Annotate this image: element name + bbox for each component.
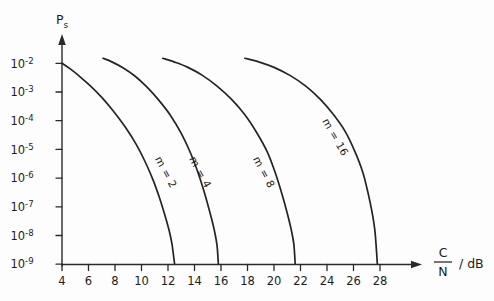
curve-label-m-2: m = 2 <box>153 154 180 190</box>
y-tick-label-6: 10-8 <box>10 228 33 243</box>
x-tick-label-9: 22 <box>293 274 308 288</box>
x-axis-title-units: / dB <box>459 256 484 271</box>
curve-label-m-4: m = 4 <box>187 154 214 190</box>
y-tick-exponent-2: -4 <box>25 113 33 123</box>
y-tick-label-3: 10-5 <box>10 142 33 157</box>
y-tick-label-0: 10-2 <box>10 56 33 71</box>
x-axis-title: C N / dB <box>434 245 484 279</box>
y-axis-tick-labels: 10-2 10-3 10-4 10-5 10-6 10-7 10-8 10-9 <box>10 56 33 272</box>
x-tick-label-7: 18 <box>240 274 255 288</box>
x-axis-tick-labels: 46810121416182022242628 <box>58 274 387 288</box>
x-tick-label-1: 6 <box>85 274 92 288</box>
x-tick-label-0: 4 <box>58 274 65 288</box>
y-tick-exponent-1: -3 <box>25 84 33 94</box>
x-tick-label-5: 14 <box>187 274 202 288</box>
y-tick-exponent-6: -8 <box>25 228 33 238</box>
chart-canvas: 10-2 10-3 10-4 10-5 10-6 10-7 10-8 10-9 … <box>0 0 494 301</box>
curve-label-m-8: m = 8 <box>251 154 278 190</box>
y-tick-label-5: 10-7 <box>10 199 33 214</box>
x-axis-ticks <box>62 265 380 271</box>
curve-group <box>62 58 377 264</box>
x-tick-label-2: 8 <box>111 274 118 288</box>
y-tick-label-4: 10-6 <box>10 170 33 185</box>
y-tick-exponent-7: -9 <box>25 256 33 266</box>
curve-m-8 <box>163 58 296 264</box>
signal-error-probability-chart: 10-2 10-3 10-4 10-5 10-6 10-7 10-8 10-9 … <box>0 0 494 301</box>
y-tick-exponent-4: -6 <box>25 170 33 180</box>
x-tick-label-11: 26 <box>346 274 361 288</box>
y-axis-arrowhead <box>58 34 66 45</box>
x-tick-label-3: 10 <box>134 274 149 288</box>
x-tick-label-4: 12 <box>161 274 176 288</box>
y-tick-label-1: 10-3 <box>10 84 33 99</box>
y-tick-exponent-3: -5 <box>25 142 33 152</box>
x-axis-title-numerator: C <box>439 245 448 260</box>
x-axis-arrowhead <box>411 261 422 269</box>
x-axis-title-denominator: N <box>438 264 447 279</box>
x-tick-label-8: 20 <box>267 274 282 288</box>
x-tick-label-6: 16 <box>214 274 229 288</box>
y-tick-exponent-5: -7 <box>25 199 33 209</box>
y-axis-title-sub: s <box>64 20 69 30</box>
x-tick-label-12: 28 <box>373 274 388 288</box>
curve-label-group: m = 2m = 4m = 8m = 16 <box>153 116 351 190</box>
x-tick-label-10: 24 <box>320 274 335 288</box>
curve-label-m-16: m = 16 <box>320 116 351 158</box>
y-axis-ticks <box>56 63 62 264</box>
x-axis <box>62 261 422 269</box>
y-tick-label-7: 10-9 <box>10 256 33 271</box>
y-axis-title: Ps <box>56 12 69 30</box>
y-tick-exponent-0: -2 <box>25 56 33 66</box>
y-tick-label-2: 10-4 <box>10 113 33 128</box>
